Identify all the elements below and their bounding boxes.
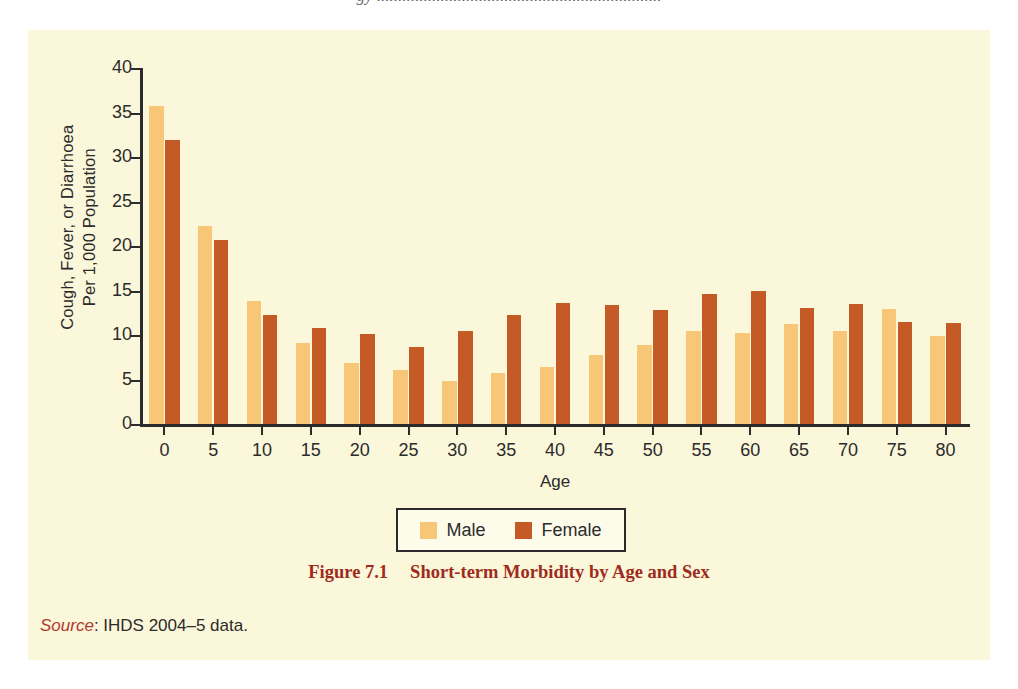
bar-male-age-0 [149, 106, 164, 424]
bar-male-age-45 [589, 355, 604, 424]
page-bleed-text: gy .....................................… [0, 0, 1018, 8]
source-label: Source [40, 616, 94, 635]
y-tick-mark [131, 335, 142, 337]
bar-male-age-50 [637, 345, 652, 424]
bar-female-age-15 [312, 328, 327, 424]
bar-female-age-65 [800, 308, 815, 424]
legend-item-male: Male [420, 520, 485, 541]
bar-female-age-0 [165, 140, 180, 424]
bar-male-age-55 [686, 331, 701, 424]
bar-female-age-45 [605, 305, 620, 424]
y-tick-mark [131, 202, 142, 204]
figure-number: Figure 7.1 [308, 562, 388, 582]
bar-female-age-35 [507, 315, 522, 424]
bar-male-age-65 [784, 324, 799, 424]
x-tick-mark-55 [700, 425, 702, 435]
plot-region: 0510152025303540 05101520253035404550556… [140, 68, 970, 424]
y-tick-label: 15 [112, 280, 132, 301]
y-tick-mark [131, 246, 142, 248]
source-text: IHDS 2004–5 data. [103, 616, 248, 635]
x-tick-mark-75 [896, 425, 898, 435]
y-tick-label: 30 [112, 146, 132, 167]
x-tick-label-60: 60 [728, 440, 772, 461]
bar-female-age-50 [653, 310, 668, 424]
x-tick-mark-50 [652, 425, 654, 435]
y-axis-label: Cough, Fever, or Diarrhoea Per 1,000 Pop… [56, 27, 101, 427]
figure-panel: Cough, Fever, or Diarrhoea Per 1,000 Pop… [28, 30, 990, 660]
x-tick-label-40: 40 [533, 440, 577, 461]
x-tick-mark-5 [212, 425, 214, 435]
bar-female-age-80 [946, 323, 961, 424]
y-axis-label-line2: Per 1,000 Population [78, 27, 100, 427]
x-tick-label-20: 20 [338, 440, 382, 461]
x-tick-mark-25 [408, 425, 410, 435]
legend-label-male: Male [446, 520, 485, 541]
bar-male-age-5 [198, 226, 213, 424]
legend-swatch-male-icon [420, 522, 437, 539]
x-tick-mark-20 [359, 425, 361, 435]
bar-male-age-10 [247, 301, 262, 424]
x-tick-label-35: 35 [484, 440, 528, 461]
x-tick-label-5: 5 [191, 440, 235, 461]
source-note: Source: IHDS 2004–5 data. [40, 616, 248, 636]
x-tick-mark-35 [505, 425, 507, 435]
y-tick-mark [131, 424, 142, 426]
y-tick-label: 0 [122, 413, 132, 434]
bar-male-age-60 [735, 333, 750, 424]
y-tick-mark [131, 113, 142, 115]
bar-male-age-80 [930, 336, 945, 424]
bar-female-age-40 [556, 303, 571, 424]
bar-female-age-75 [898, 322, 913, 424]
bar-male-age-25 [393, 370, 408, 424]
x-tick-mark-10 [261, 425, 263, 435]
x-tick-label-50: 50 [631, 440, 675, 461]
x-tick-label-75: 75 [875, 440, 919, 461]
y-axis-label-line1: Cough, Fever, or Diarrhoea [56, 27, 78, 427]
x-tick-label-30: 30 [435, 440, 479, 461]
bar-male-age-75 [882, 309, 897, 424]
y-tick-label: 5 [122, 369, 132, 390]
x-tick-label-55: 55 [679, 440, 723, 461]
x-tick-label-80: 80 [924, 440, 968, 461]
x-tick-label-70: 70 [826, 440, 870, 461]
legend-swatch-female-icon [515, 522, 532, 539]
x-tick-mark-70 [847, 425, 849, 435]
x-tick-mark-40 [554, 425, 556, 435]
bar-male-age-35 [491, 373, 506, 424]
y-tick-label: 25 [112, 191, 132, 212]
legend-label-female: Female [541, 520, 601, 541]
y-tick-mark [131, 380, 142, 382]
bar-female-age-30 [458, 331, 473, 424]
source-separator: : [94, 616, 103, 635]
y-tick-mark [131, 68, 142, 70]
x-tick-mark-15 [310, 425, 312, 435]
x-tick-mark-60 [749, 425, 751, 435]
chart-legend: Male Female [396, 508, 626, 552]
bar-female-age-25 [409, 347, 424, 424]
x-tick-label-65: 65 [777, 440, 821, 461]
y-tick-label: 20 [112, 235, 132, 256]
y-tick-label: 10 [112, 324, 132, 345]
x-tick-mark-30 [456, 425, 458, 435]
figure-title: Short-term Morbidity by Age and Sex [410, 562, 710, 582]
bar-female-age-5 [214, 240, 229, 424]
bar-female-age-20 [360, 334, 375, 424]
x-tick-label-25: 25 [387, 440, 431, 461]
x-tick-mark-45 [603, 425, 605, 435]
bar-male-age-15 [296, 343, 311, 424]
y-tick-label: 40 [112, 57, 132, 78]
x-tick-label-15: 15 [289, 440, 333, 461]
figure-caption: Figure 7.1Short-term Morbidity by Age an… [28, 562, 990, 583]
bar-male-age-30 [442, 381, 457, 424]
chart-area: Cough, Fever, or Diarrhoea Per 1,000 Pop… [28, 30, 990, 500]
bar-male-age-20 [344, 363, 359, 424]
x-tick-mark-0 [163, 425, 165, 435]
x-tick-label-0: 0 [142, 440, 186, 461]
x-tick-mark-65 [798, 425, 800, 435]
y-tick-mark [131, 157, 142, 159]
bar-female-age-70 [849, 304, 864, 424]
bar-female-age-10 [263, 315, 278, 424]
bar-female-age-60 [751, 291, 766, 424]
bar-female-age-55 [702, 294, 717, 424]
bar-male-age-40 [540, 367, 555, 424]
